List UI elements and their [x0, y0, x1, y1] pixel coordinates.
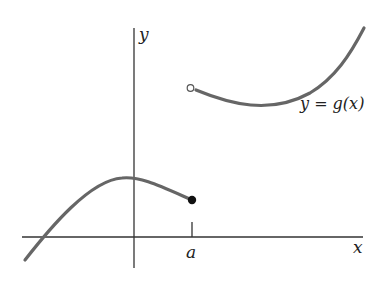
y-axis-label: y: [138, 24, 149, 44]
x-axis-label: x: [353, 237, 363, 257]
graph-svg: y x a y = g(x): [0, 0, 387, 284]
graph-figure: y x a y = g(x): [0, 0, 387, 284]
curve-left-piece: [25, 178, 192, 260]
closed-endpoint-dot: [188, 196, 196, 204]
tick-label-a: a: [186, 242, 196, 262]
open-endpoint-circle: [187, 85, 194, 92]
curve-label: y = g(x): [299, 94, 364, 113]
